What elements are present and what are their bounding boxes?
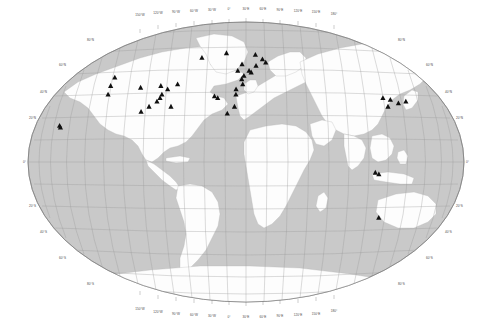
lon-label-bottom-0: 150°W — [135, 307, 145, 311]
lon-label-bottom-8: 90°E — [277, 314, 284, 318]
lon-label-top-5: 0° — [227, 7, 231, 11]
lon-label-top-2: 90°W — [172, 10, 180, 14]
lat-label-right-4: 0° — [466, 160, 470, 164]
lon-label-top-10: 150°E — [312, 10, 321, 14]
lat-label-left-5: 20°S — [29, 204, 36, 208]
lat-label-right-6: 40°S — [445, 230, 452, 234]
lon-label-bottom-5: 0° — [227, 315, 231, 319]
lon-label-top-11: 180° — [331, 12, 338, 16]
lon-label-bottom-1: 120°W — [153, 310, 163, 314]
lat-label-left-1: 60°N — [59, 63, 66, 67]
lon-label-top-9: 120°E — [294, 9, 303, 13]
lat-label-left-2: 40°N — [40, 90, 47, 94]
lat-label-right-5: 20°S — [456, 204, 463, 208]
lon-label-bottom-7: 60°E — [260, 315, 267, 319]
lon-label-bottom-3: 60°W — [190, 313, 198, 317]
longitude-labels-top: 150°W 120°W 90°W 60°W 30°W 0° 30°E 60°E … — [135, 7, 338, 17]
lat-label-right-3: 20°N — [456, 116, 463, 120]
lat-label-left-6: 40°S — [40, 230, 47, 234]
lat-label-right-0: 80°N — [398, 38, 405, 42]
lat-label-left-7: 60°S — [59, 256, 66, 260]
lon-label-top-1: 120°W — [153, 11, 163, 15]
lat-label-right-7: 60°S — [426, 256, 433, 260]
lon-label-top-4: 30°W — [208, 8, 216, 12]
lon-label-bottom-11: 180° — [331, 309, 338, 313]
lon-label-bottom-6: 30°E — [243, 315, 250, 319]
lon-label-top-6: 30°E — [243, 7, 250, 11]
lat-label-left-0: 80°N — [87, 38, 94, 42]
lat-label-left-4: 0° — [23, 160, 27, 164]
lat-label-right-2: 40°N — [445, 90, 452, 94]
lon-label-bottom-4: 30°W — [208, 314, 216, 318]
lon-label-top-8: 90°E — [277, 8, 284, 12]
lon-label-top-7: 60°E — [260, 7, 267, 11]
lat-label-right-8: 80°S — [398, 282, 405, 286]
world-map-canvas: 150°W 120°W 90°W 60°W 30°W 0° 30°E 60°E … — [0, 0, 492, 330]
lat-label-left-8: 80°S — [87, 282, 94, 286]
lon-label-bottom-2: 90°W — [172, 312, 180, 316]
lon-label-top-3: 60°W — [190, 9, 198, 13]
world-map-figure: 150°W 120°W 90°W 60°W 30°W 0° 30°E 60°E … — [0, 0, 492, 330]
lat-label-right-1: 60°N — [426, 63, 433, 67]
lat-label-left-3: 20°N — [29, 116, 36, 120]
lon-label-bottom-10: 150°E — [312, 312, 321, 316]
lon-label-bottom-9: 120°E — [294, 313, 303, 317]
lon-label-top-0: 150°W — [135, 13, 145, 17]
longitude-labels-bottom: 150°W 120°W 90°W 60°W 30°W 0° 30°E 60°E … — [135, 307, 338, 319]
